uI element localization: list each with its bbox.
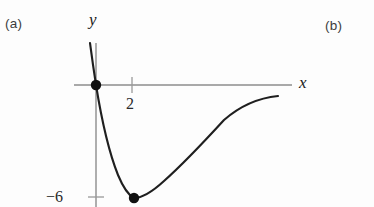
point-y-intercept <box>91 80 101 90</box>
y-axis-label: y <box>89 10 97 30</box>
y-tick-label-neg6: −6 <box>46 188 63 206</box>
x-tick-label-2: 2 <box>126 95 134 113</box>
math-figure <box>0 0 374 207</box>
x-axis-label: x <box>299 73 307 93</box>
point-local-minimum <box>129 193 139 203</box>
panel-label-a: (a) <box>5 16 22 31</box>
panel-label-b: (b) <box>325 18 342 33</box>
plotted-curve <box>90 43 278 198</box>
figure-screenshot: (a) (b) y x 2 −6 <box>0 0 374 207</box>
